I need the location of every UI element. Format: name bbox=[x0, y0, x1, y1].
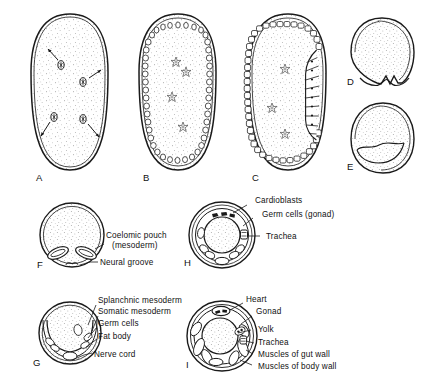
panel-I-label-trachea: Trachea bbox=[258, 338, 289, 347]
panel-F-label-mesoderm: (mesoderm) bbox=[112, 241, 158, 250]
panel-I-label-muscles-body-wall: Muscles of body wall bbox=[258, 362, 337, 371]
panel-I-nerve-cord-shape bbox=[209, 358, 223, 365]
panel-I-label-yolk: Yolk bbox=[258, 325, 275, 334]
panel-G-label-somatic-mesoderm: Somatic mesoderm bbox=[98, 307, 171, 316]
panel-C-letter: C bbox=[252, 172, 259, 183]
panel-G-letter: G bbox=[33, 357, 41, 368]
panel-H-yolk-mass bbox=[204, 217, 240, 253]
panel-G-label-fat-body: Fat body bbox=[98, 332, 132, 341]
panel-G-label-splanchnic-mesoderm: Splanchnic mesoderm bbox=[98, 296, 182, 305]
panel-H-trachea-shape bbox=[241, 230, 248, 239]
panel-I-label-gonad: Gonad bbox=[256, 307, 282, 316]
panel-B-letter: B bbox=[143, 172, 150, 183]
panel-G-label-nerve-cord: Nerve cord bbox=[94, 350, 136, 359]
embryology-figure: A bbox=[0, 0, 423, 387]
panel-F-label-neural-groove: Neural groove bbox=[100, 258, 154, 267]
panel-I-label-heart: Heart bbox=[246, 295, 267, 304]
panel-H-nerve-cord-shape bbox=[215, 257, 229, 264]
panel-I-yolk-mass bbox=[202, 318, 238, 354]
panel-F-letter: F bbox=[37, 259, 43, 270]
panel-I-trachea-shape bbox=[240, 336, 247, 344]
panel-F-label-coelomic-pouch: Coelomic pouch bbox=[106, 231, 167, 240]
panel-A-letter: A bbox=[36, 172, 43, 183]
panel-H-label-trachea: Trachea bbox=[266, 232, 297, 241]
panel-E-letter: E bbox=[347, 161, 354, 172]
panel-I-letter: I bbox=[186, 359, 189, 370]
panel-H-label-cardioblasts: Cardioblasts bbox=[255, 196, 302, 205]
panel-I-heart bbox=[212, 306, 230, 315]
panel-G-label-germ-cells: Germ cells bbox=[98, 319, 139, 328]
panel-H-letter: H bbox=[184, 257, 191, 268]
panel-I-label-muscles-gut-wall: Muscles of gut wall bbox=[258, 350, 330, 359]
panel-H-label-germ-cells-gonad: Germ cells (gonad) bbox=[262, 210, 334, 219]
panel-A-egg-outline bbox=[31, 14, 108, 170]
panel-D-letter: D bbox=[347, 76, 354, 87]
